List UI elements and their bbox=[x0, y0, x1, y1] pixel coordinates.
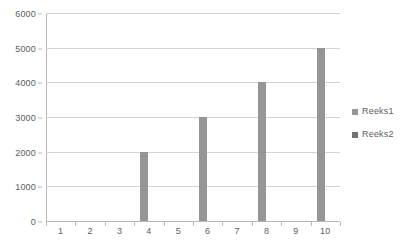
bar-chart: 0100020003000400050006000 12345678910 Re… bbox=[0, 0, 408, 252]
y-axis-tick-mark bbox=[38, 83, 42, 84]
x-axis-tick-label: 5 bbox=[176, 226, 181, 237]
y-axis: 0100020003000400050006000 bbox=[0, 14, 42, 222]
x-axis-tick-label: 2 bbox=[87, 226, 92, 237]
x-axis-tick-label: 3 bbox=[117, 226, 122, 237]
x-axis: 12345678910 bbox=[46, 226, 340, 242]
legend-label: Reeks1 bbox=[362, 107, 394, 116]
y-axis-tick-label: 0 bbox=[31, 218, 36, 227]
legend-swatch-icon bbox=[352, 109, 358, 115]
bar bbox=[140, 152, 148, 221]
y-axis-tick-mark bbox=[38, 118, 42, 119]
y-axis-tick-label: 3000 bbox=[15, 114, 36, 123]
y-axis-tick-label: 4000 bbox=[15, 79, 36, 88]
y-axis-tick-mark bbox=[38, 152, 42, 153]
x-axis-tick-label: 8 bbox=[264, 226, 269, 237]
x-axis-tick-label: 6 bbox=[205, 226, 210, 237]
x-axis-tick-label: 10 bbox=[320, 226, 330, 237]
y-axis-tick-label: 6000 bbox=[15, 10, 36, 19]
x-axis-tick-mark bbox=[340, 222, 341, 226]
legend-item: Reeks2 bbox=[352, 129, 408, 140]
legend-label: Reeks2 bbox=[362, 130, 394, 139]
x-axis-tick-label: 4 bbox=[146, 226, 151, 237]
chart-legend: Reeks1Reeks2 bbox=[352, 106, 408, 152]
bar bbox=[317, 48, 325, 221]
y-axis-tick-label: 2000 bbox=[15, 148, 36, 157]
x-axis-tick-label: 7 bbox=[234, 226, 239, 237]
x-axis-tick-label: 1 bbox=[58, 226, 63, 237]
y-axis-tick-label: 1000 bbox=[15, 183, 36, 192]
y-axis-tick-label: 5000 bbox=[15, 44, 36, 53]
y-axis-tick-mark bbox=[38, 48, 42, 49]
y-axis-tick-mark bbox=[38, 222, 42, 223]
x-axis-tick-label: 9 bbox=[293, 226, 298, 237]
legend-item: Reeks1 bbox=[352, 106, 408, 117]
bars-layer bbox=[46, 14, 340, 222]
bar bbox=[199, 117, 207, 221]
plot-area bbox=[46, 14, 340, 222]
y-axis-tick-mark bbox=[38, 187, 42, 188]
y-axis-tick-mark bbox=[38, 14, 42, 15]
legend-swatch-icon bbox=[352, 132, 358, 138]
bar bbox=[258, 82, 266, 221]
